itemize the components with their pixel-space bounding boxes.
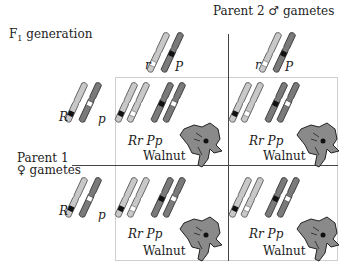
parent1-gametes-label: Parent 1 ♀ gametes <box>17 152 81 176</box>
genotype-label: Rr Pp <box>128 227 162 241</box>
allele-p-label: p <box>98 112 106 126</box>
female-symbol-icon: ♀ <box>17 163 26 177</box>
vertical-divider <box>228 34 229 261</box>
allele-R-label: R <box>59 110 68 124</box>
f1-generation-label: F1 generation <box>9 27 92 43</box>
rooster-head-icon <box>297 123 342 168</box>
allele-p-label: P <box>285 60 293 74</box>
rooster-head-icon <box>297 217 342 262</box>
parent2-label-text: Parent 2 <box>213 4 265 18</box>
male-symbol-icon: ♂ <box>268 4 279 18</box>
f1-label-rest: generation <box>22 27 92 41</box>
allele-R-label: R <box>59 204 68 218</box>
chromosome-pair-icon <box>262 30 302 80</box>
allele-r-label: r <box>145 58 151 72</box>
rooster-head-icon <box>180 217 225 262</box>
allele-p-label: p <box>98 208 106 222</box>
genotype-label: Rr Pp <box>128 134 162 148</box>
genotype-label: Rr Pp <box>249 134 283 148</box>
parent2-suffix: gametes <box>279 4 334 18</box>
allele-p-label: P <box>175 60 183 74</box>
parent2-gametes-label: Parent 2 ♂ gametes <box>213 4 334 18</box>
rooster-head-icon <box>180 123 225 168</box>
chromosome-pair-icon <box>150 30 190 80</box>
genotype-label: Rr Pp <box>249 227 283 241</box>
allele-r-label: r <box>255 58 261 72</box>
